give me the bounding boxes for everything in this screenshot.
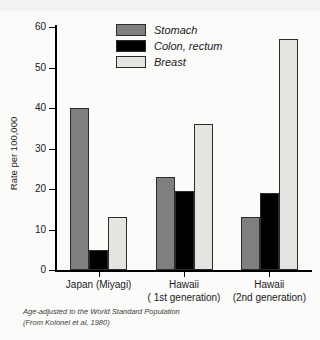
legend-item-colon-rectum: Colon, rectum bbox=[116, 38, 222, 53]
y-axis-label: Rate per 100,000 bbox=[8, 94, 19, 214]
y-tick-0 bbox=[49, 270, 55, 271]
bar-breast-group-2 bbox=[194, 124, 213, 270]
bar-breast-group-3 bbox=[279, 39, 298, 270]
legend-label-stomach: Stomach bbox=[154, 24, 197, 36]
x-group-label-3: Hawaii (2nd generation) bbox=[214, 278, 320, 304]
legend-label-breast: Breast bbox=[154, 56, 186, 68]
legend-label-colon-rectum: Colon, rectum bbox=[154, 40, 222, 52]
x-tick-2 bbox=[184, 272, 185, 277]
y-tick-label-60: 60 bbox=[20, 21, 46, 32]
y-tick-60 bbox=[49, 27, 55, 28]
legend-swatch-breast bbox=[116, 56, 146, 68]
legend-swatch-colon-rectum bbox=[116, 40, 146, 52]
y-tick-10 bbox=[49, 230, 55, 231]
legend-item-breast: Breast bbox=[116, 54, 222, 69]
y-tick-label-30: 30 bbox=[20, 143, 46, 154]
y-tick-label-50: 50 bbox=[20, 62, 46, 73]
chart-legend: Stomach Colon, rectum Breast bbox=[116, 22, 222, 70]
y-tick-label-20: 20 bbox=[20, 183, 46, 194]
y-tick-20 bbox=[49, 189, 55, 190]
x-tick-1 bbox=[99, 272, 100, 277]
x-tick-3 bbox=[269, 272, 270, 277]
footnote-line-1: Age-adjusted to the World Standard Popul… bbox=[23, 306, 180, 317]
bar-stomach-group-3 bbox=[241, 217, 260, 270]
bar-breast-group-1 bbox=[108, 217, 127, 270]
bar-stomach-group-1 bbox=[70, 108, 89, 270]
y-tick-label-10: 10 bbox=[20, 224, 46, 235]
y-tick-50 bbox=[49, 68, 55, 69]
y-tick-label-0: 0 bbox=[20, 264, 46, 275]
legend-swatch-stomach bbox=[116, 24, 146, 36]
y-axis-tick-labels: 0102030405060 bbox=[14, 0, 46, 340]
clipped-title-strip: Cancer incidence in migrant populations bbox=[0, 0, 320, 11]
y-tick-40 bbox=[49, 108, 55, 109]
bar-stomach-group-2 bbox=[156, 177, 175, 270]
bar-colon-group-3 bbox=[260, 193, 279, 270]
legend-item-stomach: Stomach bbox=[116, 22, 222, 37]
chart-footnote: Age-adjusted to the World Standard Popul… bbox=[23, 306, 180, 328]
footnote-line-2: (From Kolonel et al, 1980) bbox=[23, 317, 180, 328]
y-tick-30 bbox=[49, 149, 55, 150]
bar-colon-group-2 bbox=[175, 191, 194, 270]
bar-colon-group-1 bbox=[89, 250, 108, 270]
y-tick-label-40: 40 bbox=[20, 102, 46, 113]
chart-figure: Cancer incidence in migrant populations … bbox=[0, 0, 320, 340]
